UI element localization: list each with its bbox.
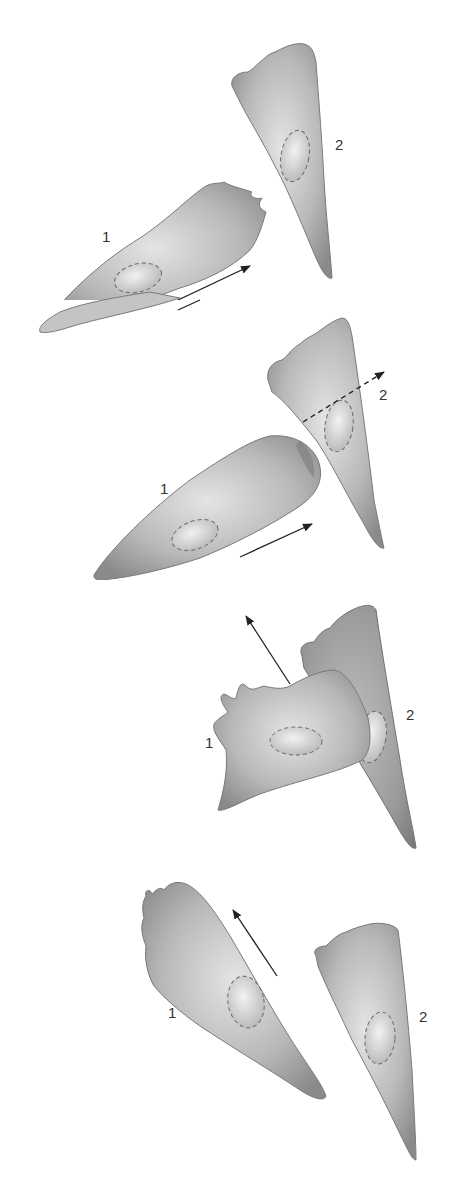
cell-2 (315, 923, 416, 1160)
cell-1-label: 1 (205, 734, 213, 751)
cell-1-label: 1 (160, 480, 168, 497)
cell-1-label: 1 (168, 1004, 176, 1021)
cell-2-label: 2 (379, 386, 387, 403)
cell-1 (214, 670, 370, 810)
panel-step-2: 1 2 (0, 300, 465, 580)
panel-4-illustration (0, 870, 465, 1178)
cell-1-nucleus (270, 727, 322, 755)
panel-3-illustration (0, 600, 465, 870)
panel-step-3: 1 2 (0, 600, 465, 870)
cell-1 (94, 436, 321, 580)
arrow-left-up-icon (246, 616, 290, 684)
cell-1-label: 1 (102, 228, 110, 245)
panel-1-illustration (0, 0, 465, 300)
cell-1 (42, 182, 266, 300)
cell-2-label: 2 (419, 1008, 427, 1025)
cell-1 (142, 882, 326, 1098)
cell-2-label: 2 (335, 136, 343, 153)
panel-2-illustration (0, 300, 465, 580)
panel-step-4: 1 2 (0, 870, 465, 1178)
cell-2-label: 2 (406, 706, 414, 723)
panel-step-1: 1 2 (0, 0, 465, 300)
